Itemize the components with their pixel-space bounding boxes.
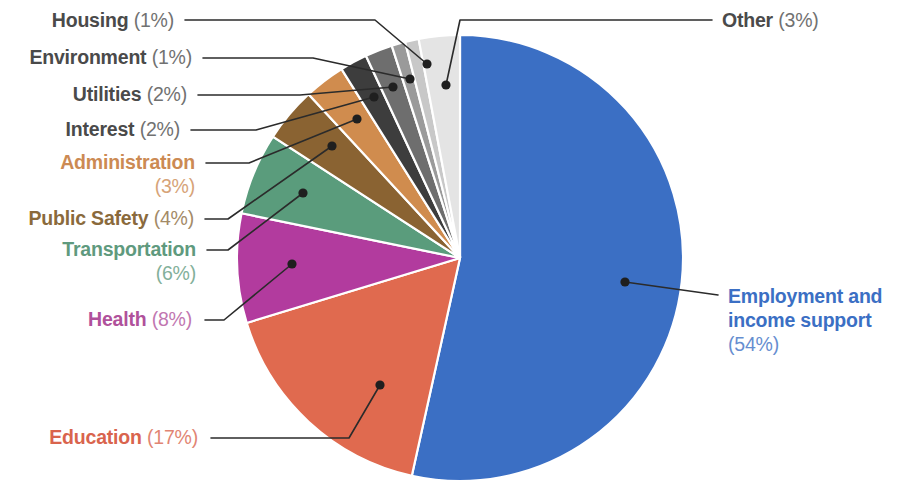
leader-dot-transportation xyxy=(298,188,307,197)
leader-dot-health xyxy=(287,259,296,268)
slice-label-administration-name: Administration xyxy=(60,151,195,173)
slice-label-employment[interactable]: Employment and income support (54%) xyxy=(728,284,908,356)
slice-label-environment-pct: (1%) xyxy=(152,46,192,68)
leader-dot-other xyxy=(441,80,450,89)
slice-label-interest-pct: (2%) xyxy=(140,118,180,140)
pie-chart: Housing (1%) Environment (1%) Utilities … xyxy=(0,0,908,489)
slice-label-utilities-name: Utilities xyxy=(73,83,142,105)
slice-label-education-name: Education xyxy=(49,426,141,448)
slice-label-utilities[interactable]: Utilities (2%) xyxy=(73,82,187,106)
slice-label-transportation-pct: (6%) xyxy=(156,262,196,284)
leader-dot-environment xyxy=(405,74,414,83)
slice-label-education-pct: (17%) xyxy=(147,426,198,448)
slice-label-employment-name: Employment and xyxy=(728,285,882,307)
leader-dot-education xyxy=(375,380,384,389)
slice-label-other-pct: (3%) xyxy=(778,9,818,31)
slice-label-transportation-name: Transportation xyxy=(62,238,196,260)
leader-dot-public-safety xyxy=(327,141,336,150)
slice-label-public-safety-name: Public Safety xyxy=(29,207,149,229)
leader-dot-utilities xyxy=(388,82,397,91)
slice-label-education[interactable]: Education (17%) xyxy=(49,425,198,449)
slice-label-administration-pct: (3%) xyxy=(155,175,195,197)
slice-label-interest[interactable]: Interest (2%) xyxy=(66,117,180,141)
slice-label-health-pct: (8%) xyxy=(152,308,192,330)
slice-label-environment[interactable]: Environment (1%) xyxy=(29,45,192,69)
slice-label-transportation[interactable]: Transportation (6%) xyxy=(62,237,196,285)
pie-slices xyxy=(237,35,683,481)
slice-label-environment-name: Environment xyxy=(29,46,146,68)
slice-label-public-safety-pct: (4%) xyxy=(154,207,194,229)
slice-label-housing-name: Housing xyxy=(52,9,129,31)
leader-dot-housing xyxy=(422,59,431,68)
slice-label-housing[interactable]: Housing (1%) xyxy=(52,8,174,32)
slice-label-other[interactable]: Other (3%) xyxy=(722,8,819,32)
slice-label-employment-name2: income support xyxy=(728,309,871,331)
slice-label-public-safety[interactable]: Public Safety (4%) xyxy=(29,206,194,230)
slice-label-interest-name: Interest xyxy=(66,118,135,140)
slice-label-utilities-pct: (2%) xyxy=(147,83,187,105)
slice-label-health[interactable]: Health (8%) xyxy=(88,307,192,331)
leader-dot-employment xyxy=(620,277,629,286)
slice-label-housing-pct: (1%) xyxy=(134,9,174,31)
leader-dot-administration xyxy=(352,114,361,123)
slice-label-health-name: Health xyxy=(88,308,146,330)
leader-dot-interest xyxy=(369,92,378,101)
slice-label-employment-pct: (54%) xyxy=(728,333,779,355)
slice-label-administration[interactable]: Administration (3%) xyxy=(60,150,195,198)
slice-label-other-name: Other xyxy=(722,9,773,31)
